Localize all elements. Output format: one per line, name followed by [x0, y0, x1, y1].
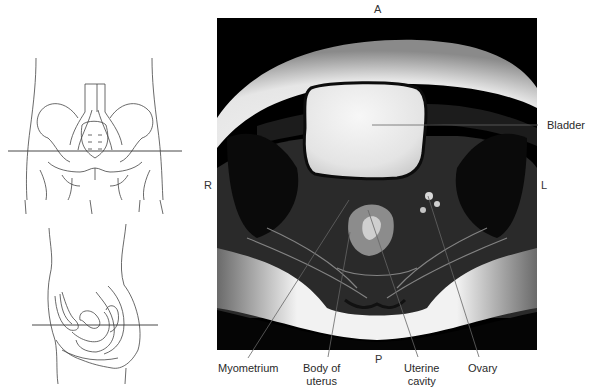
- orientation-anterior: A: [374, 3, 381, 15]
- sagittal-pelvis-diagram: [0, 200, 200, 391]
- label-body-of-uterus-line1: Body of: [303, 362, 340, 375]
- label-ovary: Ovary: [468, 362, 497, 375]
- orientation-right: R: [204, 179, 212, 191]
- label-myometrium: Myometrium: [218, 362, 279, 375]
- label-body-of-uterus: Body of uterus: [303, 362, 340, 388]
- label-bladder: Bladder: [547, 119, 585, 132]
- orientation-left: L: [541, 179, 547, 191]
- label-uterine-cavity-line2: cavity: [404, 375, 439, 388]
- mri-axial-image: [217, 18, 537, 350]
- label-uterine-cavity: Uterine cavity: [404, 362, 439, 388]
- label-body-of-uterus-line2: uterus: [303, 375, 340, 388]
- label-uterine-cavity-line1: Uterine: [404, 362, 439, 375]
- orientation-posterior: P: [375, 353, 382, 365]
- frontal-pelvis-diagram: [0, 0, 200, 200]
